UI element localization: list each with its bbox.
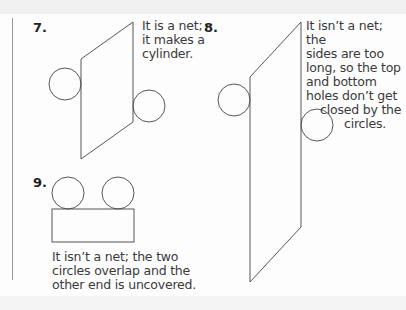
fig7-left-circle — [49, 68, 81, 100]
exercise-9-answer: It isn’t a net; the two circles overlap … — [52, 250, 196, 292]
fig7-parallelogram — [81, 22, 133, 159]
answer-line: circles overlap and the — [52, 264, 196, 278]
fig9-left-circle — [52, 177, 84, 209]
exercise-7-number: 7. — [33, 20, 47, 35]
answer-line: It is a net; — [142, 19, 205, 33]
answer-line: it makes a — [142, 33, 205, 47]
exercise-8-answer: It isn’t a net; the sides are too long, … — [306, 19, 406, 131]
exercise-7-answer: It is a net; it makes a cylinder. — [142, 19, 205, 61]
answer-line: other end is uncovered. — [52, 278, 196, 292]
fig8-parallelogram — [250, 22, 301, 282]
answer-line: It isn’t a net; the two — [52, 250, 196, 264]
answer-line: circles. — [306, 117, 406, 131]
answer-line: It isn’t a net; the — [306, 19, 406, 47]
fig7-right-circle — [133, 90, 165, 122]
answer-line: holes don’t get — [306, 89, 406, 103]
fig9-right-circle — [102, 177, 134, 209]
answer-line: closed by the — [306, 103, 406, 117]
answer-line: cylinder. — [142, 47, 205, 61]
answer-line: sides are too — [306, 47, 406, 61]
fig9-rectangle — [52, 209, 134, 242]
exercise-9-number: 9. — [33, 175, 47, 190]
exercise-8-number: 8. — [204, 20, 218, 35]
answer-line: long, so the top — [306, 61, 406, 75]
answer-line: and bottom — [306, 75, 406, 89]
fig8-left-circle — [218, 84, 250, 116]
